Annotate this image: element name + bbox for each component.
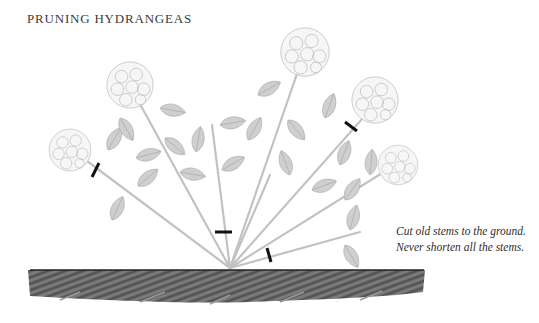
ground — [28, 270, 425, 304]
hydrangea-illustration — [0, 0, 539, 323]
caption-text: Cut old stems to the ground. Never short… — [396, 223, 536, 255]
cut-mark-icon — [267, 248, 271, 262]
